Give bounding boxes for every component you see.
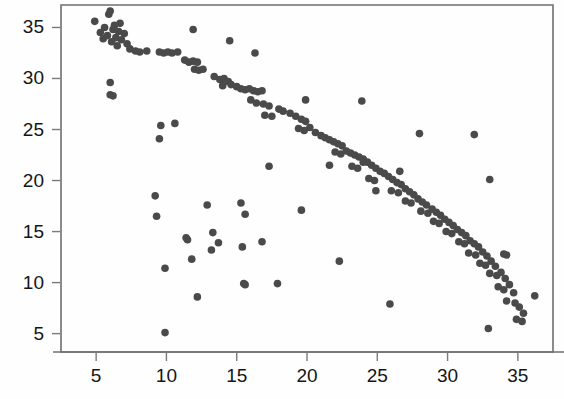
data-point (265, 162, 273, 170)
data-point (109, 92, 117, 100)
data-point (194, 293, 202, 301)
data-point (470, 131, 478, 139)
data-point (416, 130, 424, 138)
data-point (106, 79, 114, 87)
data-point (219, 82, 227, 90)
data-point (251, 49, 259, 57)
scatter-plot-figure: 5101520253035 5101520253035 (0, 0, 564, 399)
data-point (465, 249, 473, 257)
data-point (395, 189, 403, 197)
data-point (371, 177, 379, 185)
data-point (151, 192, 159, 200)
data-point (226, 37, 234, 45)
data-point (184, 236, 192, 244)
data-point (189, 26, 197, 34)
data-point (500, 286, 508, 294)
data-point (203, 201, 211, 209)
data-point (298, 206, 306, 214)
data-point (239, 243, 247, 251)
data-point (194, 58, 202, 66)
data-point (258, 238, 266, 246)
data-point (386, 300, 394, 308)
x-tick-label: 20 (296, 365, 317, 386)
data-point (518, 318, 526, 326)
data-point (396, 168, 404, 176)
data-point (241, 210, 249, 218)
data-point (241, 281, 249, 289)
data-point (237, 199, 245, 207)
data-point (388, 187, 396, 195)
x-tick-label: 25 (367, 365, 388, 386)
x-tick-label: 30 (437, 365, 458, 386)
data-point (302, 96, 310, 104)
data-point (136, 48, 144, 56)
data-point (209, 229, 217, 237)
data-point (174, 48, 182, 56)
data-point (503, 251, 511, 259)
data-point (171, 120, 179, 128)
data-point (265, 102, 273, 110)
y-tick-label: 25 (23, 119, 44, 140)
data-point (116, 20, 124, 28)
data-point (215, 239, 223, 247)
x-tick-label: 5 (91, 365, 102, 386)
data-point (208, 246, 216, 254)
data-point (279, 107, 287, 115)
y-tick-label: 10 (23, 272, 44, 293)
data-point (486, 270, 494, 278)
x-tick-label: 35 (507, 365, 528, 386)
data-point (161, 329, 169, 337)
data-point (268, 112, 276, 120)
y-tick-label: 15 (23, 221, 44, 242)
data-point (515, 303, 523, 311)
data-point (503, 297, 511, 305)
data-point (492, 262, 500, 270)
data-point (358, 97, 366, 105)
data-point (359, 158, 367, 166)
data-point (472, 251, 480, 259)
data-point (199, 66, 207, 74)
data-point (417, 207, 425, 215)
data-point (156, 135, 164, 143)
data-point (407, 199, 415, 207)
data-point (258, 87, 266, 95)
data-point (520, 309, 528, 317)
data-point (486, 176, 494, 184)
figure-background (0, 0, 564, 399)
x-tick-label: 15 (226, 365, 247, 386)
data-point (326, 161, 334, 169)
y-tick-label: 20 (23, 170, 44, 191)
x-tick-label: 10 (156, 365, 177, 386)
data-point (101, 24, 109, 32)
data-point (274, 280, 282, 288)
data-point (354, 164, 362, 172)
data-point (143, 47, 151, 55)
data-point (188, 255, 196, 263)
data-point (106, 7, 114, 15)
data-point (157, 122, 165, 130)
data-point (253, 99, 261, 107)
y-tick-label: 5 (33, 323, 44, 344)
data-point (510, 289, 518, 297)
data-point (261, 111, 269, 119)
y-tick-label: 35 (23, 16, 44, 37)
data-point (485, 325, 493, 333)
y-tick-label: 30 (23, 67, 44, 88)
data-point (531, 292, 539, 300)
data-point (306, 124, 314, 132)
data-point (336, 257, 344, 265)
data-point (120, 30, 128, 38)
data-point (372, 187, 380, 195)
data-point (497, 269, 505, 277)
data-point (153, 212, 161, 220)
data-point (506, 281, 514, 289)
scatter-plot-canvas: 5101520253035 5101520253035 (0, 0, 564, 399)
data-point (161, 265, 169, 273)
data-point (91, 18, 99, 26)
